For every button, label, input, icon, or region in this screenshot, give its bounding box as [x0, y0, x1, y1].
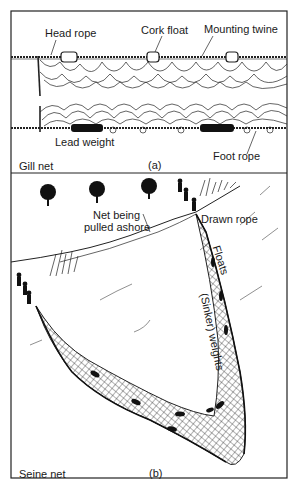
- lead-weight: [71, 124, 103, 132]
- gill-net-illustration: [11, 36, 287, 154]
- cork-float: [226, 52, 238, 62]
- lead-weight: [200, 124, 234, 132]
- label-head-rope: Head rope: [45, 27, 96, 39]
- panel-a-caption: (a): [148, 159, 161, 171]
- tree: [40, 178, 157, 206]
- lower-mesh: [40, 103, 287, 126]
- panel-a-title: Gill net: [19, 160, 53, 172]
- label-net-being-pulled-line1: Net being: [93, 209, 140, 221]
- panel-b-title: Seine net: [19, 468, 65, 480]
- label-foot-rope: Foot rope: [213, 150, 260, 162]
- label-mounting-twine: Mounting twine: [204, 23, 278, 35]
- panel-b-caption: (b): [149, 467, 162, 479]
- label-cork-float: Cork float: [141, 24, 188, 36]
- people-left: [17, 273, 32, 304]
- upper-mesh: [40, 60, 287, 89]
- label-drawn-rope: Drawn rope: [201, 213, 258, 225]
- cork-float: [147, 52, 159, 62]
- label-net-being-pulled-line2: pulled ashore: [84, 221, 150, 233]
- cork-float: [61, 52, 77, 62]
- label-lead-weight: Lead weight: [55, 136, 114, 148]
- fishing-nets-diagram: [0, 0, 298, 487]
- people-pulling-rope: [178, 179, 197, 211]
